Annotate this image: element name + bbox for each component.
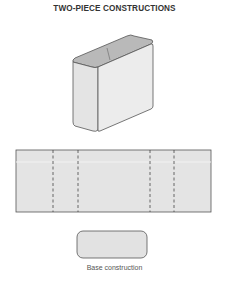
base-piece [77,231,147,258]
assembled-box-figure [73,35,153,131]
box-front-face [73,62,98,131]
diagram-canvas [0,0,229,295]
base-caption: Base construction [0,264,229,271]
flat-body-piece [16,150,211,212]
